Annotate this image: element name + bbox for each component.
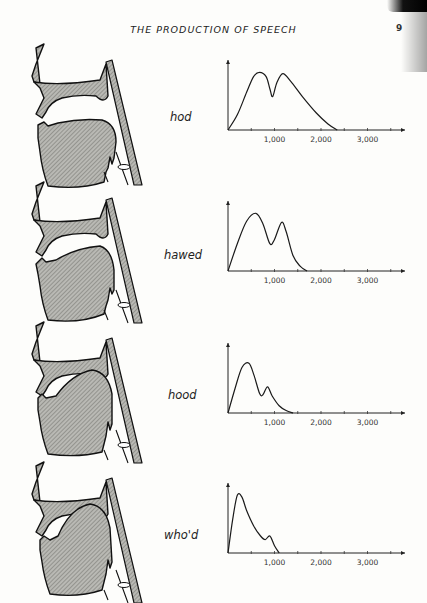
- spectrum-curve: [228, 494, 279, 553]
- spectrum-chart: 1,0002,0003,000: [0, 0, 427, 603]
- x-tick-label: 1,000: [264, 558, 286, 567]
- x-tick-label: 3,000: [357, 558, 379, 567]
- x-tick-label: 2,000: [310, 558, 332, 567]
- y-axis-arrow-icon: [226, 483, 230, 487]
- x-axis-arrow-icon: [401, 551, 405, 555]
